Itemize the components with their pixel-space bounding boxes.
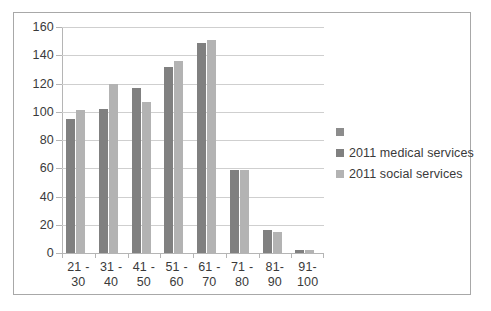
bar-medical-services[interactable] bbox=[132, 88, 141, 253]
x-axis-category-label: 91-100 bbox=[291, 260, 325, 290]
x-axis-category-label: 61 -70 bbox=[192, 260, 226, 290]
bars-layer bbox=[62, 27, 324, 253]
legend-label: 2011 medical services bbox=[349, 146, 474, 160]
x-axis-tick-mark bbox=[259, 253, 260, 258]
bar-medical-services[interactable] bbox=[230, 170, 239, 253]
y-axis-tick-label: 20 bbox=[40, 218, 54, 232]
x-axis-label-line-1: 21 - bbox=[61, 260, 95, 275]
x-axis-label-line-1: 51 - bbox=[160, 260, 194, 275]
x-axis-label-line-1: 91- bbox=[291, 260, 325, 275]
bar-medical-services[interactable] bbox=[66, 119, 75, 253]
legend-item[interactable] bbox=[336, 121, 466, 142]
x-axis-tick-mark bbox=[160, 253, 161, 258]
bar-social-services[interactable] bbox=[240, 170, 249, 253]
chart-frame: 020406080100120140160 21 -3031 -4041 -50… bbox=[13, 12, 471, 295]
bar-medical-services[interactable] bbox=[99, 109, 108, 253]
legend-color-swatch bbox=[336, 170, 344, 178]
x-axis-category-label: 71 -80 bbox=[225, 260, 259, 290]
x-axis-category-label: 81-90 bbox=[258, 260, 292, 290]
x-axis-label-line-2: 50 bbox=[127, 275, 161, 290]
bar-cluster bbox=[291, 27, 324, 253]
y-axis-tick-label: 80 bbox=[40, 133, 54, 147]
y-axis-tick-mark bbox=[56, 112, 62, 113]
x-axis-label-line-2: 30 bbox=[61, 275, 95, 290]
x-axis-tick-mark bbox=[128, 253, 129, 258]
legend-item[interactable]: 2011 medical services bbox=[336, 142, 466, 163]
y-axis-tick-mark bbox=[56, 253, 62, 254]
legend-label: 2011 social services bbox=[349, 167, 463, 181]
y-axis-tick-mark bbox=[56, 197, 62, 198]
x-axis-category-label: 31 -40 bbox=[94, 260, 128, 290]
bar-cluster bbox=[193, 27, 226, 253]
bar-cluster bbox=[95, 27, 128, 253]
x-axis-category-label: 41 -50 bbox=[127, 260, 161, 290]
x-axis-label-line-1: 61 - bbox=[192, 260, 226, 275]
y-axis-tick-label: 60 bbox=[40, 161, 54, 175]
x-axis-label-line-2: 40 bbox=[94, 275, 128, 290]
x-axis-tick-mark bbox=[291, 253, 292, 258]
bar-social-services[interactable] bbox=[174, 61, 183, 253]
x-axis-label-line-1: 81- bbox=[258, 260, 292, 275]
bar-social-services[interactable] bbox=[109, 84, 118, 254]
x-axis-tick-mark bbox=[62, 253, 63, 258]
y-axis-tick-label: 40 bbox=[40, 190, 54, 204]
legend-item[interactable]: 2011 social services bbox=[336, 163, 466, 184]
x-axis-label-line-1: 41 - bbox=[127, 260, 161, 275]
legend-color-swatch bbox=[336, 128, 344, 136]
y-axis-tick-mark bbox=[56, 140, 62, 141]
x-axis-label-line-2: 70 bbox=[192, 275, 226, 290]
bar-cluster bbox=[226, 27, 259, 253]
x-axis-category-label: 21 -30 bbox=[61, 260, 95, 290]
plot-area bbox=[62, 27, 324, 253]
bar-medical-services[interactable] bbox=[263, 230, 272, 253]
legend-color-swatch bbox=[336, 149, 344, 157]
x-axis-label-line-2: 90 bbox=[258, 275, 292, 290]
x-axis-label-line-2: 100 bbox=[291, 275, 325, 290]
y-axis-tick-mark bbox=[56, 168, 62, 169]
y-axis-tick-mark bbox=[56, 55, 62, 56]
x-axis-label-line-2: 80 bbox=[225, 275, 259, 290]
x-axis-ticks bbox=[62, 253, 324, 259]
chart-legend: 2011 medical services2011 social service… bbox=[336, 121, 466, 184]
bar-social-services[interactable] bbox=[142, 102, 151, 253]
y-axis-tick-label: 120 bbox=[33, 77, 54, 91]
x-axis-label-line-2: 60 bbox=[160, 275, 194, 290]
y-axis-labels: 020406080100120140160 bbox=[16, 27, 59, 253]
bar-cluster bbox=[128, 27, 161, 253]
x-axis-label-line-1: 71 - bbox=[225, 260, 259, 275]
y-axis-tick-label: 140 bbox=[33, 48, 54, 62]
x-axis-tick-mark bbox=[95, 253, 96, 258]
y-axis-tick-mark bbox=[56, 84, 62, 85]
bar-social-services[interactable] bbox=[76, 110, 85, 253]
bar-cluster bbox=[160, 27, 193, 253]
bar-medical-services[interactable] bbox=[197, 43, 206, 253]
x-axis-labels: 21 -3031 -4041 -5051 -6061 -7071 -8081-9… bbox=[62, 260, 324, 300]
chart-plot-wrapper: 020406080100120140160 21 -3031 -4041 -50… bbox=[14, 13, 470, 294]
y-axis-tick-label: 100 bbox=[33, 105, 54, 119]
x-axis-category-label: 51 -60 bbox=[160, 260, 194, 290]
y-axis-tick-mark bbox=[56, 27, 62, 28]
y-axis-tick-label: 0 bbox=[47, 246, 54, 260]
bar-cluster bbox=[259, 27, 292, 253]
x-axis-tick-mark bbox=[323, 253, 324, 258]
y-axis-tick-mark bbox=[56, 225, 62, 226]
bar-cluster bbox=[62, 27, 95, 253]
y-axis-tick-label: 160 bbox=[33, 20, 54, 34]
x-axis-tick-mark bbox=[193, 253, 194, 258]
bar-social-services[interactable] bbox=[273, 232, 282, 253]
bar-social-services[interactable] bbox=[207, 40, 216, 253]
bar-medical-services[interactable] bbox=[164, 67, 173, 253]
x-axis-label-line-1: 31 - bbox=[94, 260, 128, 275]
x-axis-tick-mark bbox=[226, 253, 227, 258]
